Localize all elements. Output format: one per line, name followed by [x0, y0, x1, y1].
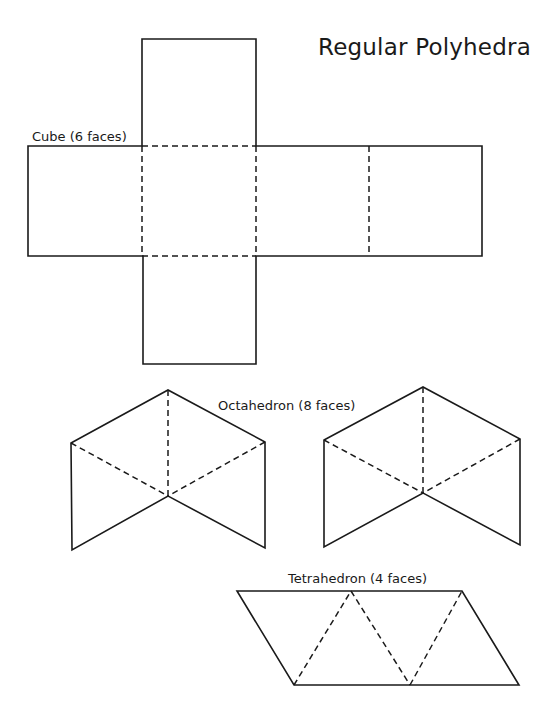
tetrahedron-fold-line	[410, 591, 462, 685]
cube-label: Cube (6 faces)	[32, 129, 127, 144]
octahedron-net-left	[71, 390, 265, 550]
tetrahedron-net	[237, 591, 519, 685]
tetrahedron-label: Tetrahedron (4 faces)	[288, 571, 427, 586]
octahedron-fold-line	[423, 439, 520, 493]
polyhedra-nets-diagram	[0, 0, 555, 721]
octahedron-fold-line	[71, 443, 168, 496]
tetrahedron-fold-line	[351, 591, 410, 685]
octahedron-fold-line	[324, 440, 423, 493]
diagram-title: Regular Polyhedra	[318, 34, 531, 60]
tetrahedron-fold-line	[294, 591, 351, 685]
octahedron-label: Octahedron (8 faces)	[218, 398, 355, 413]
cube-net	[28, 39, 482, 364]
cube-net-outline	[28, 39, 482, 364]
tetrahedron-outline	[237, 591, 519, 685]
octahedron-fold-line	[168, 442, 265, 496]
